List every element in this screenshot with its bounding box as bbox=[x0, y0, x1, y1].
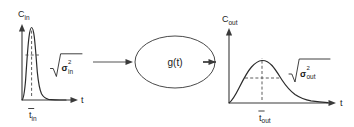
svg-text:tin: tin bbox=[29, 110, 37, 122]
output-plot-spread-label: σ 2 out bbox=[289, 59, 330, 82]
output-plot-y-axis-label: Cout bbox=[222, 14, 238, 26]
input-plot-mean-tick-label: tin bbox=[28, 109, 37, 122]
input-plot-x-axis-label: t bbox=[81, 95, 84, 105]
output-plot-mean-tick-label: tout bbox=[258, 111, 270, 124]
diagram-canvas: Cin t tin σ 2 in bbox=[0, 0, 354, 127]
input-plot: Cin t tin σ 2 in bbox=[18, 9, 84, 122]
output-plot-x-axis bbox=[229, 100, 336, 106]
input-plot-curve bbox=[22, 28, 66, 101]
arrow-input-to-system bbox=[93, 59, 133, 65]
output-plot-curve bbox=[229, 60, 328, 103]
svg-text:2: 2 bbox=[307, 65, 311, 71]
system-label: g(t) bbox=[168, 57, 183, 68]
svg-text:in: in bbox=[68, 68, 73, 75]
input-plot-spread-label: σ 2 in bbox=[51, 54, 83, 77]
svg-text:2: 2 bbox=[68, 59, 72, 65]
output-plot: Cout t tout σ 2 out bbox=[222, 14, 343, 124]
arrow-system-to-output bbox=[203, 59, 216, 65]
output-plot-y-axis bbox=[226, 28, 232, 103]
svg-text:σ: σ bbox=[62, 63, 68, 73]
output-plot-x-axis-label: t bbox=[340, 98, 343, 108]
svg-text:σ: σ bbox=[300, 69, 306, 79]
svg-text:out: out bbox=[307, 73, 316, 80]
input-plot-y-axis-label: Cin bbox=[18, 9, 30, 21]
svg-text:tout: tout bbox=[259, 113, 271, 125]
